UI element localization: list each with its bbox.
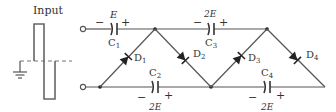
- svg-text:C4: C4: [261, 67, 274, 80]
- svg-text:2E: 2E: [148, 102, 162, 112]
- svg-text:D2: D2: [193, 48, 206, 61]
- svg-text:E: E: [109, 9, 118, 20]
- svg-text:−: −: [95, 16, 104, 29]
- input-terminal-bottom: [80, 84, 85, 89]
- svg-text:C2: C2: [149, 67, 161, 80]
- diode-d2: D2: [155, 29, 211, 87]
- diode-d3: D3: [211, 29, 267, 87]
- svg-text:+: +: [276, 89, 285, 102]
- svg-text:D1: D1: [134, 52, 147, 65]
- svg-text:C1: C1: [108, 37, 120, 50]
- svg-text:+: +: [121, 16, 130, 29]
- ground-icon: [13, 61, 27, 78]
- voltage-multiplier-diagram: Input E − + C1: [0, 0, 336, 112]
- svg-text:−: −: [248, 91, 257, 104]
- svg-text:+: +: [219, 16, 228, 29]
- svg-text:+: +: [164, 89, 173, 102]
- svg-text:C3: C3: [205, 37, 217, 50]
- svg-text:−: −: [193, 16, 202, 29]
- capacitor-c2: C2 − + 2E: [137, 67, 173, 112]
- input-label: Input: [33, 4, 64, 17]
- capacitor-c4: C4 − + 2E: [248, 67, 285, 112]
- svg-text:2E: 2E: [260, 102, 274, 112]
- svg-text:2E: 2E: [203, 9, 217, 19]
- diode-d4: D4: [267, 29, 325, 87]
- svg-text:D3: D3: [248, 52, 261, 65]
- input-waveform: Input: [13, 4, 72, 99]
- input-terminal-top: [80, 26, 85, 31]
- svg-text:D4: D4: [306, 49, 319, 62]
- svg-text:−: −: [137, 91, 146, 104]
